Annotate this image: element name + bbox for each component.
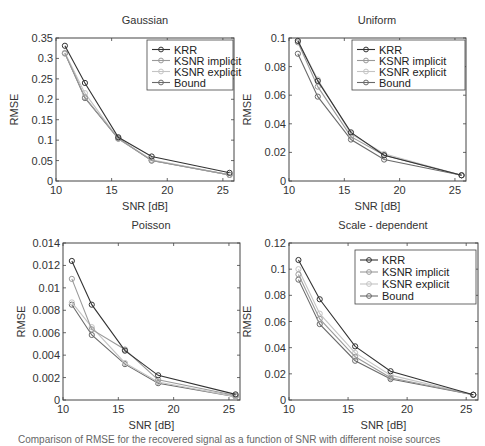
legend-entry-label: KSNR explicit <box>382 278 449 290</box>
figure-caption: Comparison of RMSE for the recovered sig… <box>18 434 478 446</box>
legend: KRRKSNR implicitKSNR explicitBound <box>147 40 241 90</box>
x-axis-label: SNR [dB] <box>355 200 401 212</box>
y-tick-label: 0.1 <box>271 32 286 44</box>
legend-entry-label: Bound <box>382 290 414 302</box>
x-tick-label: 25 <box>223 403 235 415</box>
figure-canvas: 00.050.10.150.20.250.30.3510152025Gaussi… <box>0 0 485 446</box>
x-tick-label: 20 <box>401 403 413 415</box>
x-tick-label: 10 <box>50 184 62 196</box>
x-tick-label: 15 <box>342 403 354 415</box>
y-axis-label: RMSE <box>8 94 20 126</box>
y-tick-label: 0.08 <box>265 61 286 73</box>
y-tick-label: 0.1 <box>271 263 286 275</box>
y-tick-label: 0.014 <box>32 237 60 249</box>
y-tick-label: 0.04 <box>265 118 286 130</box>
subplot-gaussian: 00.050.10.150.20.250.30.3510152025Gaussi… <box>8 14 241 212</box>
axes-frame <box>63 243 240 400</box>
y-axis-label: RMSE <box>15 306 27 338</box>
x-tick-label: 20 <box>394 184 406 196</box>
y-tick-label: 0.06 <box>265 316 286 328</box>
legend: KRRKSNR implicitKSNR explicitBound <box>355 250 476 304</box>
x-tick-label: 25 <box>449 184 461 196</box>
y-tick-label: 0.2 <box>38 93 53 105</box>
legend: KRRKSNR implicitKSNR explicitBound <box>352 40 465 90</box>
y-tick-label: 0.008 <box>32 304 60 316</box>
y-tick-label: 0.002 <box>32 372 60 384</box>
y-tick-label: 0.3 <box>38 52 53 64</box>
legend-entry-label: KRR <box>382 254 405 266</box>
x-tick-label: 20 <box>168 403 180 415</box>
x-axis-label: SNR [dB] <box>122 200 168 212</box>
x-tick-label: 25 <box>217 184 229 196</box>
subplot-title: Uniform <box>358 14 397 26</box>
x-tick-label: 25 <box>460 403 472 415</box>
y-tick-label: 0.1 <box>38 134 53 146</box>
legend-entry-label: Bound <box>379 77 411 89</box>
y-tick-label: 0.02 <box>265 146 286 158</box>
subplot-title: Poisson <box>131 219 170 231</box>
y-tick-label: 0.25 <box>32 73 53 85</box>
y-tick-label: 0.05 <box>32 155 53 167</box>
y-tick-label: 0.006 <box>32 327 60 339</box>
x-tick-label: 10 <box>283 184 295 196</box>
y-tick-label: 0.012 <box>32 259 60 271</box>
y-axis-label: RMSE <box>241 306 253 338</box>
legend-entry-label: Bound <box>174 77 206 89</box>
x-tick-label: 10 <box>57 403 69 415</box>
y-tick-label: 0.06 <box>265 89 286 101</box>
y-tick-label: 0.15 <box>32 114 53 126</box>
y-tick-label: 0.02 <box>265 368 286 380</box>
y-tick-label: 0.12 <box>265 237 286 249</box>
subplot-title: Scale - dependent <box>338 219 427 231</box>
x-tick-label: 10 <box>283 403 295 415</box>
x-tick-label: 20 <box>161 184 173 196</box>
x-axis-label: SNR [dB] <box>129 419 175 431</box>
x-tick-label: 15 <box>112 403 124 415</box>
y-tick-label: 0.004 <box>32 349 60 361</box>
y-tick-label: 0.01 <box>39 282 60 294</box>
x-tick-label: 15 <box>338 184 350 196</box>
legend-entry-label: KSNR implicit <box>382 266 449 278</box>
subplot-poisson: 00.0020.0040.0060.0080.010.0120.01410152… <box>15 219 240 431</box>
x-tick-label: 15 <box>106 184 118 196</box>
x-axis-label: SNR [dB] <box>361 419 407 431</box>
subplot-uniform: 00.020.040.060.080.110152025UniformSNR [… <box>241 14 466 212</box>
y-tick-label: 0.35 <box>32 32 53 44</box>
subplot-scale-dependent: 00.020.040.060.080.10.1210152025Scale - … <box>241 219 478 431</box>
y-tick-label: 0.04 <box>265 342 286 354</box>
subplot-title: Gaussian <box>122 14 168 26</box>
y-axis-label: RMSE <box>241 94 253 126</box>
y-tick-label: 0.08 <box>265 289 286 301</box>
